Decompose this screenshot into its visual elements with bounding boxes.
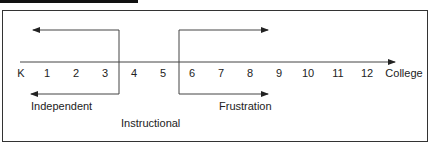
scale-label-10: 10 [302,67,314,79]
scale-label-6: 6 [189,67,195,79]
frustration-label: Frustration [219,100,272,112]
scale-label-college: College [385,67,422,79]
scale-label-5: 5 [160,67,166,79]
scale-label-7: 7 [218,67,224,79]
independent-label: Independent [31,100,92,112]
scale-label-11: 11 [332,67,343,79]
scale-label-8: 8 [247,67,253,79]
scale-label-3: 3 [102,67,108,79]
instructional-label: Instructional [121,117,180,129]
scale-label-12: 12 [361,67,373,79]
scale-label-9: 9 [276,67,282,79]
scale-label-1: 1 [44,67,50,79]
frustration-top-arrow [179,30,268,62]
independent-top-arrow [33,30,119,62]
scale-label-k: K [17,67,24,79]
scale-label-2: 2 [73,67,79,79]
scale-label-4: 4 [131,67,137,79]
